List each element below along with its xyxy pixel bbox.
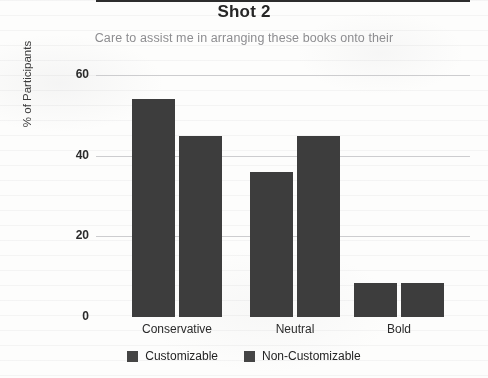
y-axis-label: % of Participants — [21, 14, 33, 154]
legend-swatch-icon — [244, 351, 255, 362]
y-tick-label: 40 — [55, 148, 89, 162]
bar — [179, 136, 222, 318]
bar — [297, 136, 340, 318]
bar — [250, 172, 293, 317]
bar — [354, 283, 397, 317]
x-tick-label: Bold — [329, 322, 469, 336]
gridline — [96, 75, 470, 76]
bar — [401, 283, 444, 317]
x-axis-line — [96, 0, 470, 2]
legend-swatch-icon — [127, 351, 138, 362]
chart-legend: CustomizableNon-Customizable — [0, 349, 488, 363]
plot-area: % of Participants 0204060 ConservativeNe… — [0, 0, 488, 378]
legend-label: Non-Customizable — [262, 349, 361, 363]
bar — [132, 99, 175, 317]
legend-item[interactable]: Non-Customizable — [244, 349, 361, 363]
legend-item[interactable]: Customizable — [127, 349, 218, 363]
chart-screenshot: Shot 2 Care to assist me in arranging th… — [0, 0, 488, 378]
y-tick-label: 0 — [55, 309, 89, 323]
y-tick-label: 20 — [55, 228, 89, 242]
y-tick-label: 60 — [55, 67, 89, 81]
legend-label: Customizable — [145, 349, 218, 363]
